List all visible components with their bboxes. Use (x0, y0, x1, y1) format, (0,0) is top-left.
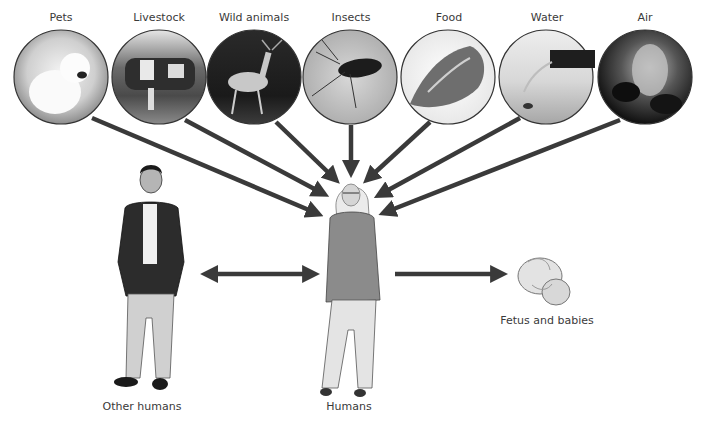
water-photo-icon (499, 30, 595, 124)
food-photo-icon (401, 30, 495, 124)
insects-photo-icon (303, 30, 397, 124)
livestock-photo-icon (112, 30, 206, 124)
label-humans: Humans (326, 400, 371, 413)
arrow-water-to-humans (381, 118, 520, 194)
wild-animals-photo-icon (207, 30, 301, 124)
label-fetus-and-babies: Fetus and babies (500, 314, 593, 327)
source-label-insects: Insects (332, 11, 371, 24)
diagram-canvas (0, 0, 708, 424)
arrow-air-to-humans (386, 120, 620, 212)
woman-figure-icon (320, 184, 380, 397)
source-label-pets: Pets (49, 11, 72, 24)
source-label-water: Water (531, 11, 564, 24)
source-label-food: Food (436, 11, 462, 24)
arrow-food-to-humans (369, 122, 430, 178)
arrow-livestock-to-humans (185, 120, 322, 193)
pets-photo-icon (14, 30, 108, 124)
air-photo-icon (598, 30, 692, 124)
man-figure-icon (114, 165, 184, 390)
arrow-wild-to-humans (276, 122, 334, 178)
source-label-air: Air (637, 11, 652, 24)
fetus-figure-icon (518, 258, 570, 305)
source-label-livestock: Livestock (133, 11, 185, 24)
source-label-wild-animals: Wild animals (219, 11, 289, 24)
label-other-humans: Other humans (103, 400, 182, 413)
